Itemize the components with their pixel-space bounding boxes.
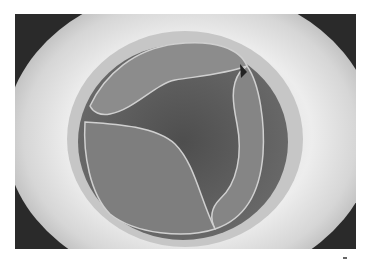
corner-mark bbox=[343, 257, 347, 259]
valve-illustration bbox=[15, 14, 356, 249]
valve-photograph bbox=[15, 14, 356, 249]
